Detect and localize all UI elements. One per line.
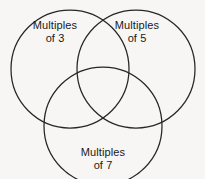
label-multiples-of-7: Multiples of 7 xyxy=(72,146,134,172)
venn-diagram: Multiples of 3 Multiples of 5 Multiples … xyxy=(0,0,205,179)
label-multiples-of-5-line-1: Multiples xyxy=(106,19,168,32)
label-multiples-of-5: Multiples of 5 xyxy=(106,19,168,45)
label-multiples-of-7-line-1: Multiples xyxy=(72,146,134,159)
label-multiples-of-3-line-1: Multiples xyxy=(24,19,86,32)
label-multiples-of-7-line-2: of 7 xyxy=(72,159,134,172)
label-multiples-of-3-line-2: of 3 xyxy=(24,32,86,45)
label-multiples-of-3: Multiples of 3 xyxy=(24,19,86,45)
label-multiples-of-5-line-2: of 5 xyxy=(106,32,168,45)
